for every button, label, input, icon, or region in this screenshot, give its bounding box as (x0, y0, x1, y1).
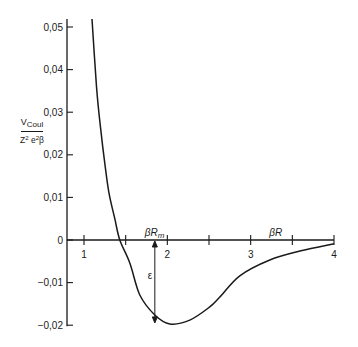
y-tick-label: 0,01 (44, 192, 64, 203)
x-tick-label: 2 (165, 249, 171, 260)
x-axis-label: βR (268, 227, 282, 238)
beta-rm-subscript: m (158, 231, 165, 240)
chart-canvas: 0,050,040,030,020,010−0,01−0,02 1234 ε β… (0, 0, 358, 347)
x-tick-label: 1 (81, 249, 87, 260)
x-tick-label: 4 (331, 249, 337, 260)
y-label-z-sup: 2 (25, 135, 28, 141)
y-label-sub: Coul (27, 120, 43, 129)
x-tick-label: 3 (248, 249, 254, 260)
y-axis-label: VCoul Z2 e2β (12, 117, 52, 146)
y-axis-label-denominator: Z2 e2β (12, 133, 52, 146)
arrow-head-down (152, 317, 157, 323)
arrow-head-up (152, 241, 157, 247)
y-tick-label: 0 (57, 235, 63, 246)
y-tick-label: 0,05 (44, 22, 64, 33)
y-tick-label: −0,01 (38, 277, 64, 288)
y-tick-labels: 0,050,040,030,020,010−0,01−0,02 (38, 22, 64, 331)
y-label-beta: β (39, 135, 44, 145)
y-tick-label: 0,04 (44, 64, 64, 75)
axes (67, 19, 334, 326)
epsilon-arrow (152, 241, 157, 323)
epsilon-label: ε (148, 270, 153, 281)
y-tick-label: 0,02 (44, 149, 64, 160)
potential-curve (92, 19, 334, 324)
y-tick-label: −0,02 (38, 320, 64, 331)
beta-rm-label: βRm (144, 227, 165, 240)
y-axis-label-numerator: VCoul (21, 117, 43, 132)
